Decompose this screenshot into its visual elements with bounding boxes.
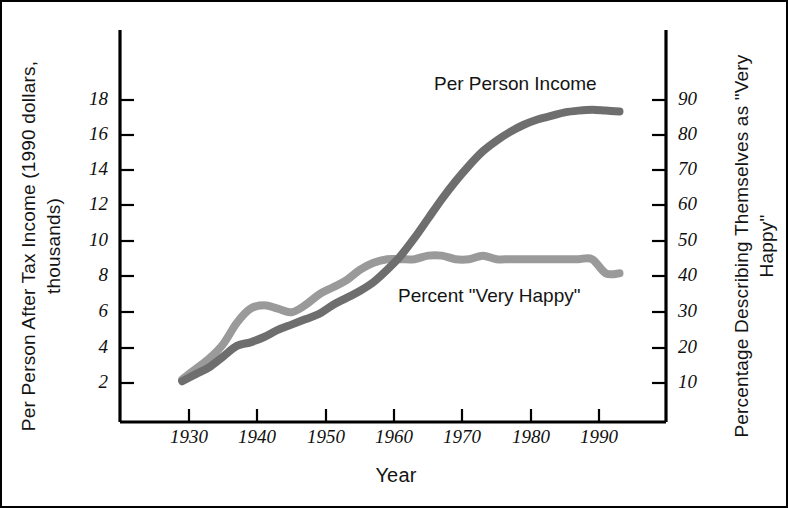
y-right-tick-label-70: 70	[678, 158, 724, 180]
x-axis-ticks	[189, 409, 599, 422]
left-axis-ticks	[120, 100, 134, 383]
y-right-tick-label-40: 40	[678, 264, 724, 286]
y-right-tick-label-90: 90	[678, 88, 724, 110]
series-annotation-per-person-income: Per Person Income	[434, 73, 597, 95]
y-right-tick-label-30: 30	[678, 300, 724, 322]
series-annotation-percent-very-happy: Percent "Very Happy"	[398, 285, 580, 307]
y-right-tick-label-20: 20	[678, 336, 724, 358]
y-axis-title-right: Percentage Describing Themselves as "Ver…	[729, 36, 785, 456]
series-line-per-person-income	[182, 110, 619, 382]
y-right-tick-label-50: 50	[678, 229, 724, 251]
y-right-tick-label-80: 80	[678, 123, 724, 145]
data-series	[182, 110, 619, 382]
series-line-percent-very-happy	[182, 255, 619, 379]
y-right-tick-label-10: 10	[678, 371, 724, 393]
y-right-tick-label-60: 60	[678, 193, 724, 215]
y-axis-title-left: Per Person After Tax Income (1990 dollar…	[16, 36, 72, 456]
figure-frame: 18 16 14 12 10 8 6 4 2 90 80 70 60 50 40…	[0, 0, 788, 508]
x-tick-label-1990: 1990	[557, 426, 641, 448]
right-axis-ticks	[652, 100, 666, 383]
x-axis-title: Year	[2, 464, 788, 487]
